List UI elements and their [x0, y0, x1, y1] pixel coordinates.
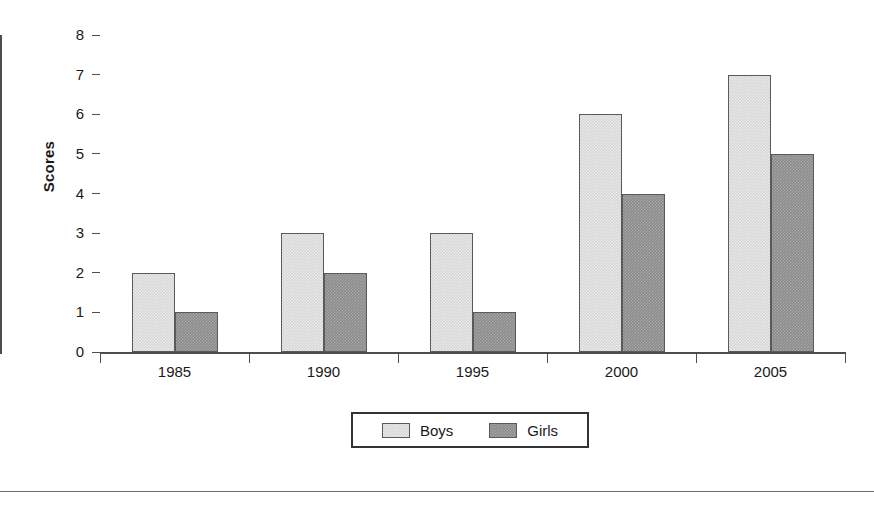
- bar-chart-figure: Scores 012345678 19851990199520002005 Bo…: [0, 0, 874, 507]
- x-axis-line: [100, 352, 846, 354]
- bar-girls-2005: [771, 154, 814, 352]
- y-axis-tick: [92, 74, 100, 75]
- x-axis-tick: [696, 354, 697, 363]
- bars-layer: [100, 35, 846, 352]
- y-axis-tick-label: 8: [52, 27, 84, 42]
- x-axis-origin-tick: [100, 354, 101, 363]
- legend-swatch-girls: [489, 423, 517, 438]
- x-axis-tick-label: 2000: [562, 364, 682, 379]
- x-axis-tick-label: 2005: [711, 364, 831, 379]
- x-axis-tick-label: 1995: [413, 364, 533, 379]
- legend-label-boys: Boys: [420, 423, 453, 438]
- x-axis-tick-label: 1985: [115, 364, 235, 379]
- x-axis-tick: [398, 354, 399, 363]
- y-axis-tick-label: 1: [52, 304, 84, 319]
- y-axis-tick: [92, 193, 100, 194]
- bar-girls-1990: [324, 273, 367, 352]
- y-axis-tick-label: 5: [52, 146, 84, 161]
- bar-girls-1985: [175, 312, 218, 352]
- legend-label-girls: Girls: [527, 423, 558, 438]
- y-axis-tick: [92, 352, 100, 353]
- x-axis-tick: [249, 354, 250, 363]
- bar-boys-2000: [579, 114, 622, 352]
- y-axis-tick-label: 3: [52, 225, 84, 240]
- bar-girls-1995: [473, 312, 516, 352]
- page-divider-rule: [0, 491, 874, 492]
- bar-girls-2000: [622, 194, 665, 353]
- x-axis-tick: [547, 354, 548, 363]
- y-axis-tick-label: 4: [52, 186, 84, 201]
- y-axis-tick: [92, 233, 100, 234]
- y-axis-line: [0, 35, 2, 354]
- y-axis-tick-label: 6: [52, 106, 84, 121]
- y-axis-tick-label: 2: [52, 265, 84, 280]
- y-axis-tick: [92, 312, 100, 313]
- y-axis-tick: [92, 114, 100, 115]
- legend-entry-boys: Boys: [382, 423, 453, 438]
- y-axis-tick-label: 0: [52, 344, 84, 359]
- bar-boys-1995: [430, 233, 473, 352]
- legend-swatch-boys: [382, 423, 410, 438]
- y-axis-tick-label: 7: [52, 67, 84, 82]
- y-axis-tick: [92, 35, 100, 36]
- bar-boys-2005: [728, 75, 771, 352]
- x-axis-end-tick: [845, 354, 846, 363]
- bar-boys-1985: [132, 273, 175, 352]
- legend-entry-girls: Girls: [489, 423, 558, 438]
- y-axis-tick: [92, 272, 100, 273]
- y-axis-tick: [92, 153, 100, 154]
- bar-boys-1990: [281, 233, 324, 352]
- chart-legend: BoysGirls: [351, 412, 589, 448]
- x-axis-tick-label: 1990: [264, 364, 384, 379]
